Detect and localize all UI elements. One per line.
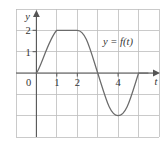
curve-label: y = f(t) [102,36,133,48]
y-tick-label-1: 1 [25,47,30,58]
y-tick-label-2: 2 [25,25,30,36]
t-tick-label-4: 4 [115,77,121,88]
t-tick-label-1: 1 [54,77,59,88]
t-tick-label-0: 0 [26,77,31,88]
t-tick-label-2: 2 [75,77,80,88]
y-axis-label: y [24,11,30,22]
function-graph-svg: y t 2 1 0 1 2 4 y = f(t) [0,0,166,145]
chart-figure: y t 2 1 0 1 2 4 y = f(t) [0,0,166,145]
